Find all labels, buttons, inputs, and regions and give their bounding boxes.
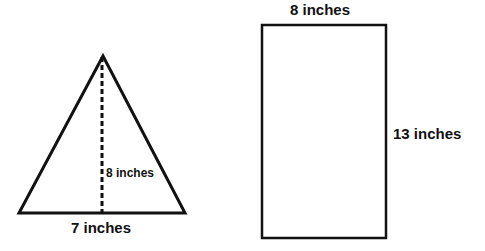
rectangle-figure: 8 inches 13 inches <box>262 1 461 238</box>
rectangle-width-label: 8 inches <box>290 1 350 18</box>
diagram-canvas: 8 inches 7 inches 8 inches 13 inches <box>0 0 485 251</box>
triangle-figure: 8 inches 7 inches <box>19 56 185 236</box>
rectangle-height-label: 13 inches <box>393 125 461 142</box>
triangle-base-label: 7 inches <box>71 219 131 236</box>
rectangle-shape <box>262 25 386 238</box>
triangle-height-label: 8 inches <box>106 166 154 180</box>
